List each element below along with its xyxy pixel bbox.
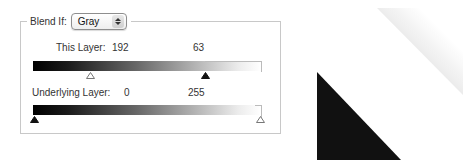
underlying-layer-label: Underlying Layer: xyxy=(32,87,110,98)
black-slider-handle-icon[interactable] xyxy=(201,72,210,79)
this-layer-label: This Layer: xyxy=(56,42,105,53)
underlying-layer-gradient-bar[interactable] xyxy=(33,105,261,115)
this-layer-range-bracket xyxy=(205,61,262,72)
black-slider-handle-icon[interactable] xyxy=(30,116,39,123)
underlying-layer-black-value: 0 xyxy=(124,87,130,98)
white-slider-handle-icon[interactable] xyxy=(86,72,95,79)
blend-if-channel-value: Gray xyxy=(72,16,100,27)
this-layer-black-value: 192 xyxy=(112,42,129,53)
blend-if-panel xyxy=(20,21,281,134)
blend-if-header: Blend If: Gray xyxy=(27,11,131,31)
this-layer-white-value: 63 xyxy=(193,42,204,53)
gray-gradient-triangle xyxy=(377,8,463,95)
white-slider-handle-icon[interactable] xyxy=(256,116,265,123)
underlying-layer-white-value: 255 xyxy=(188,87,205,98)
blend-if-channel-select[interactable]: Gray xyxy=(71,13,127,30)
blend-if-label: Blend If: xyxy=(30,16,67,27)
black-triangle xyxy=(317,72,401,160)
up-down-stepper-icon[interactable] xyxy=(112,15,124,28)
